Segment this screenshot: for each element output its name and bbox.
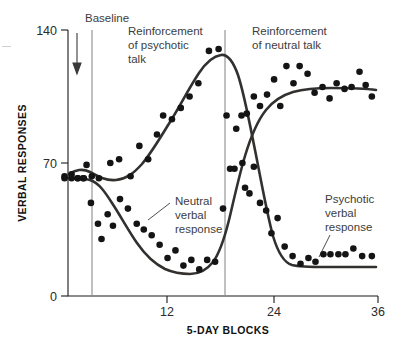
phase2-label: Reinforcement of psychotic talk	[128, 25, 204, 65]
data-point	[290, 80, 297, 87]
data-point	[140, 226, 147, 233]
psychotic-series-label-line1: Psychotic	[325, 193, 374, 205]
data-point	[81, 175, 88, 182]
data-point	[95, 221, 102, 228]
data-point	[206, 48, 213, 55]
data-point	[172, 247, 179, 254]
phase3-label-line1: Reinforcement	[252, 25, 328, 37]
data-point	[264, 91, 271, 98]
phase3-label-line2: of neutral talk	[252, 39, 321, 51]
data-point	[257, 200, 264, 207]
data-point	[359, 253, 366, 260]
data-point	[148, 232, 155, 239]
data-point	[133, 221, 140, 228]
data-point	[204, 257, 211, 264]
data-point	[342, 251, 349, 258]
x-axis-title: 5-DAY BLOCKS	[187, 324, 269, 336]
data-point	[268, 230, 275, 237]
data-point	[281, 243, 288, 250]
data-point	[369, 253, 376, 260]
neutral-label-leader	[148, 203, 170, 220]
data-point	[169, 116, 176, 123]
psychotic-series-label-line2: verbal	[325, 207, 356, 219]
data-point	[283, 63, 290, 70]
data-point	[117, 196, 124, 203]
neutral-series-label-line2: verbal	[175, 209, 206, 221]
data-point	[319, 84, 326, 91]
phase2-label-line3: talk	[128, 53, 146, 65]
data-point	[348, 84, 355, 91]
y-tick-label-70: 70	[43, 157, 57, 171]
data-point	[289, 253, 296, 260]
data-point	[297, 260, 304, 267]
data-point	[333, 80, 340, 87]
data-point	[96, 175, 103, 182]
data-point	[362, 82, 369, 89]
data-point	[233, 126, 240, 133]
data-point	[104, 211, 111, 218]
data-point	[335, 251, 342, 258]
phase2-label-line1: Reinforcement	[128, 25, 204, 37]
phase3-label: Reinforcement of neutral talk	[252, 25, 328, 51]
data-point	[220, 205, 227, 212]
data-point	[215, 46, 222, 53]
data-point	[251, 164, 258, 171]
data-point	[356, 69, 363, 76]
baseline-arrow-icon	[73, 33, 81, 74]
data-point	[98, 236, 105, 243]
neutral-series-label: Neutral verbal response	[175, 195, 222, 235]
x-tick-label-24: 24	[267, 305, 281, 319]
data-point	[89, 173, 96, 180]
data-point	[74, 175, 81, 182]
data-point	[188, 257, 195, 264]
data-point	[164, 255, 171, 262]
psychotic-series-label-line3: response	[325, 221, 372, 233]
phase2-label-line2: of psychotic	[128, 39, 189, 51]
data-point	[350, 245, 357, 252]
data-point	[195, 80, 202, 87]
data-point	[156, 241, 163, 248]
baseline-label: Baseline	[85, 12, 129, 24]
data-point	[320, 251, 327, 258]
data-point	[277, 103, 284, 110]
x-tick-label-12: 12	[160, 305, 174, 319]
data-point	[61, 175, 68, 182]
data-point	[180, 262, 187, 269]
axes-group	[61, 30, 378, 303]
y-axis-title: VERBAL RESPONSES	[16, 104, 28, 222]
chart-figure: 140 70 0 12 24 36 5-DAY BLOCKS VERBAL RE…	[0, 0, 406, 341]
data-point	[68, 175, 75, 182]
data-point	[212, 259, 219, 266]
data-point	[271, 76, 278, 83]
data-point	[239, 160, 246, 167]
data-point	[127, 173, 134, 180]
data-point	[88, 200, 95, 207]
data-point	[244, 110, 251, 117]
data-point	[263, 207, 270, 214]
data-point	[107, 160, 114, 167]
data-points-neutral	[61, 63, 375, 273]
y-tick-label-0: 0	[50, 290, 57, 304]
neutral-series-label-line1: Neutral	[175, 195, 212, 207]
data-point	[145, 156, 152, 163]
y-tick-label-140: 140	[36, 24, 57, 38]
data-point	[227, 165, 234, 172]
data-point	[125, 205, 132, 212]
data-point	[136, 143, 143, 150]
data-point	[311, 89, 318, 96]
data-point	[251, 93, 258, 100]
data-point	[186, 93, 193, 100]
data-point	[246, 190, 253, 197]
data-point	[369, 93, 376, 100]
x-tick-label-36: 36	[371, 305, 385, 319]
data-point	[326, 95, 333, 102]
psychotic-series-label: Psychotic verbal response	[325, 193, 374, 233]
data-point	[196, 266, 203, 273]
data-point	[242, 184, 249, 191]
data-point	[223, 112, 230, 119]
data-point	[257, 103, 264, 110]
data-point	[341, 86, 348, 93]
data-point	[304, 70, 311, 77]
data-point	[160, 112, 167, 119]
data-point	[305, 255, 312, 262]
